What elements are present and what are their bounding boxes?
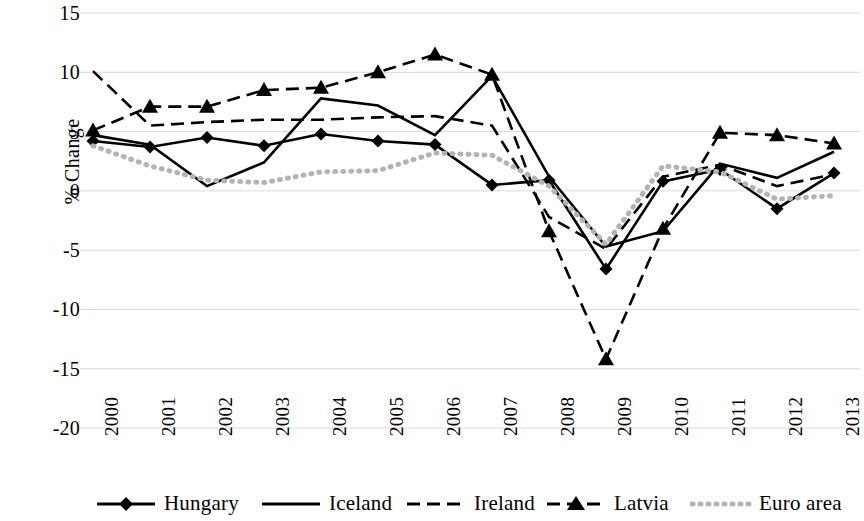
data-point-marker bbox=[258, 139, 271, 152]
x-tick-label: 2006 bbox=[444, 397, 463, 436]
series-line bbox=[93, 146, 834, 244]
x-tick-label: 2004 bbox=[330, 397, 349, 436]
data-point-marker bbox=[315, 127, 328, 140]
legend-item-ireland[interactable]: Ireland bbox=[405, 488, 535, 518]
legend-item-latvia[interactable]: Latvia bbox=[545, 488, 669, 518]
data-point-marker bbox=[600, 263, 613, 276]
legend-label: Latvia bbox=[614, 493, 669, 514]
legend-item-iceland[interactable]: Iceland bbox=[260, 488, 392, 518]
plot-area bbox=[0, 0, 864, 440]
x-tick-label: 2008 bbox=[558, 397, 577, 436]
line-chart: % Change 151050-5-10-15-20 2000200120022… bbox=[0, 0, 864, 521]
x-tick-label: 2003 bbox=[273, 397, 292, 436]
legend-item-hungary[interactable]: Hungary bbox=[95, 488, 239, 518]
series-line bbox=[93, 71, 834, 249]
legend-symbol bbox=[545, 492, 607, 514]
x-tick-label: 2002 bbox=[216, 397, 235, 436]
legend-label: Ireland bbox=[474, 493, 535, 514]
series-line bbox=[93, 55, 834, 360]
data-point-marker bbox=[370, 64, 386, 78]
legend-label: Hungary bbox=[164, 493, 239, 514]
legend-symbol bbox=[405, 492, 467, 514]
x-tick-label: 2001 bbox=[159, 397, 178, 436]
legend-symbol bbox=[260, 492, 322, 514]
x-tick-label: 2000 bbox=[102, 397, 121, 436]
x-tick-label: 2010 bbox=[672, 397, 691, 436]
x-tick-label: 2013 bbox=[843, 397, 862, 436]
series-ireland bbox=[93, 71, 834, 249]
legend-label: Iceland bbox=[329, 493, 392, 514]
legend-symbol bbox=[690, 492, 752, 514]
series-hungary bbox=[87, 127, 841, 275]
legend-symbol bbox=[95, 492, 157, 514]
series-line bbox=[93, 134, 834, 269]
series-line bbox=[93, 76, 834, 247]
series-iceland bbox=[93, 76, 834, 247]
data-point-marker bbox=[372, 135, 385, 148]
chart-legend: HungaryIcelandIrelandLatviaEuro area bbox=[0, 488, 864, 521]
x-tick-label: 2007 bbox=[501, 397, 520, 436]
x-tick-label: 2005 bbox=[387, 397, 406, 436]
data-point-marker bbox=[828, 167, 841, 180]
series-euro-area bbox=[93, 146, 834, 244]
x-tick-label: 2011 bbox=[729, 398, 748, 437]
legend-item-euro-area[interactable]: Euro area bbox=[690, 488, 842, 518]
legend-label: Euro area bbox=[759, 493, 842, 514]
series-latvia bbox=[85, 47, 842, 366]
data-point-marker bbox=[541, 223, 557, 237]
data-point-marker bbox=[427, 47, 443, 61]
x-tick-label: 2009 bbox=[615, 397, 634, 436]
data-point-marker bbox=[598, 351, 614, 365]
x-tick-label: 2012 bbox=[786, 397, 805, 436]
data-point-marker bbox=[201, 131, 214, 144]
